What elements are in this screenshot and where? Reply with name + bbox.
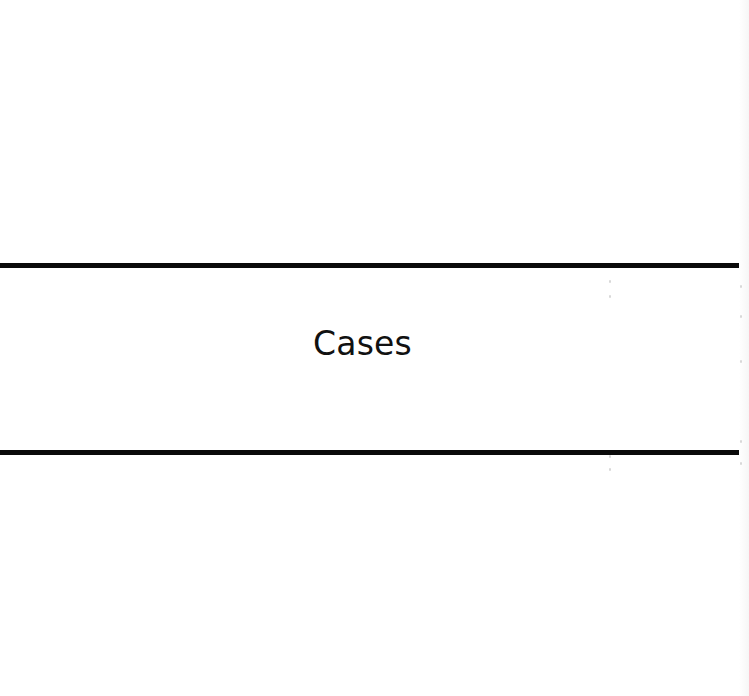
- scan-artifact: [609, 280, 611, 283]
- scan-artifact: [740, 360, 742, 363]
- scan-artifact: [609, 455, 611, 458]
- scan-artifact: [740, 285, 742, 288]
- scan-artifact: [609, 468, 611, 471]
- top-rule-divider: [0, 263, 739, 268]
- bottom-rule-divider: [0, 450, 739, 455]
- scan-artifact: [740, 315, 742, 318]
- scan-artifact: [609, 295, 611, 298]
- page-edge-shadow: [739, 0, 749, 696]
- scan-artifact: [740, 462, 742, 465]
- scan-artifact: [740, 440, 742, 443]
- section-title: Cases: [0, 322, 725, 366]
